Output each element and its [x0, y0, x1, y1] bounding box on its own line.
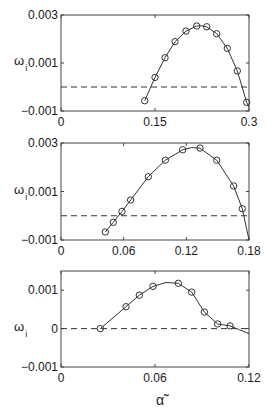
x-tick-label: 0.06 [112, 244, 136, 258]
y-tick-label: −0.001 [21, 104, 58, 118]
x-axis-label: α̃ [156, 392, 169, 408]
plot-panel-1: 00.150.3−0.0010.0010.003ωi [14, 8, 258, 129]
x-tick-label: 0 [58, 371, 65, 385]
x-tick-label: 0 [58, 244, 65, 258]
x-tick-label: 0.12 [175, 244, 199, 258]
y-tick-label: 0.001 [28, 185, 58, 199]
axes-box [61, 143, 249, 240]
y-axis-label: ωi [14, 53, 27, 73]
theory-curve [105, 148, 249, 240]
y-tick-label: 0.001 [28, 56, 58, 70]
y-tick-label: 0.003 [28, 136, 58, 150]
y-tick-label: −0.001 [21, 233, 58, 247]
y-tick-label: 0 [51, 322, 58, 336]
y-axis-label: ωi [14, 182, 27, 202]
data-point-marker [102, 229, 108, 235]
plot-panel-2: 00.060.120.18−0.0010.0010.003ωi [14, 136, 261, 258]
figure: 00.150.3−0.0010.0010.003ωi00.060.120.18−… [0, 0, 272, 415]
x-tick-label: 0.18 [237, 244, 261, 258]
x-tick-label: 0 [58, 115, 65, 129]
y-tick-label: 0.001 [28, 283, 58, 297]
theory-curve [145, 26, 249, 108]
x-tick-label: 0.15 [143, 115, 167, 129]
plot-panel-3: 00.060.12−0.00100.001ωi [14, 271, 261, 385]
y-axis-label: ωi [14, 319, 27, 339]
y-tick-label: −0.001 [21, 360, 58, 374]
x-tick-label: 0.3 [241, 115, 258, 129]
x-tick-label: 0.06 [143, 371, 167, 385]
axes-box [61, 15, 249, 111]
y-tick-label: 0.003 [28, 8, 58, 22]
x-tick-label: 0.12 [237, 371, 261, 385]
